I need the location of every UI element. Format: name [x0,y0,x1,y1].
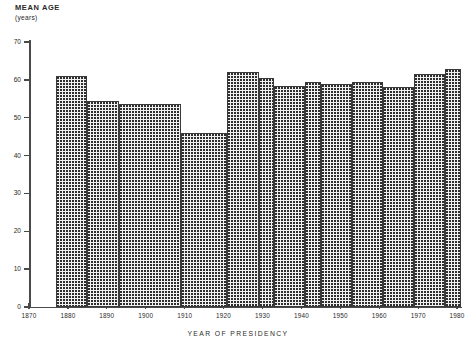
bar [274,86,305,307]
bar [181,133,228,307]
bar [352,82,383,307]
bar [227,72,258,307]
bar-series [0,0,476,347]
bar [383,87,414,307]
bar [56,76,87,307]
chart-root: MEAN AGE (years) 010203040506070 1870188… [0,0,476,347]
x-axis-title: YEAR OF PRESIDENCY [0,330,476,337]
bar [445,69,461,308]
bar [305,82,321,307]
bar [414,74,445,307]
bar [259,78,275,307]
bar [321,84,352,307]
bar [87,101,118,307]
bar [119,104,181,307]
